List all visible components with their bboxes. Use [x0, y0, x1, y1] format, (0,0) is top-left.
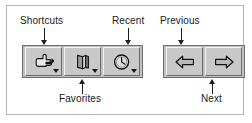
callout-label-shortcuts: Shortcuts	[20, 15, 63, 26]
pointing-hand-icon	[33, 52, 55, 72]
chevron-down-icon[interactable]	[92, 69, 98, 73]
callout-label-favorites: Favorites	[59, 93, 101, 104]
callout-label-recent: Recent	[112, 15, 144, 26]
book-icon	[72, 52, 94, 72]
next-button[interactable]	[205, 47, 242, 76]
previous-button[interactable]	[166, 47, 203, 76]
chevron-down-icon[interactable]	[53, 69, 59, 73]
toolbar-callout-figure: Shortcuts Recent Previous Favorites Next	[0, 0, 252, 123]
chevron-down-icon[interactable]	[131, 69, 137, 73]
dropdown-button-group	[22, 45, 143, 78]
shortcuts-button[interactable]	[25, 47, 62, 76]
callout-label-previous: Previous	[160, 15, 200, 26]
arrow-right-icon	[212, 52, 236, 72]
callout-label-next: Next	[201, 93, 222, 104]
navigation-button-group	[163, 45, 245, 78]
arrow-left-icon	[173, 52, 197, 72]
favorites-button[interactable]	[64, 47, 101, 76]
clock-icon	[111, 52, 133, 72]
recent-button[interactable]	[103, 47, 140, 76]
